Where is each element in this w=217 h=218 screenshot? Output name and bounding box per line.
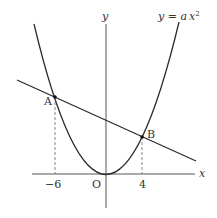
curve-label-exp: 2 — [195, 10, 199, 18]
point-A-dot — [53, 95, 57, 99]
tick-label-4: 4 — [139, 178, 146, 191]
x-axis-label: x — [199, 167, 206, 180]
curve-label-coef: a — [180, 10, 187, 23]
origin-label: O — [92, 178, 101, 191]
parabola-line-diagram: A B x y O −6 4 y = ax2 — [0, 0, 217, 218]
curve-label-lhs: y = — [157, 10, 180, 23]
point-B-label: B — [147, 128, 155, 141]
point-B-dot — [140, 135, 144, 139]
curve-label: y = ax2 — [157, 10, 200, 23]
y-axis-label: y — [101, 10, 109, 23]
point-A-label: A — [43, 95, 53, 108]
tick-label-neg6: −6 — [45, 178, 61, 191]
